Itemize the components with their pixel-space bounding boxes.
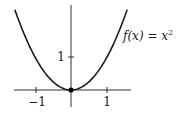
function-label-exponent: 2 [168, 28, 173, 37]
origin-point [68, 87, 73, 92]
parabola-plot: −1 1 1 f(x) = x2 [0, 0, 184, 113]
function-label-main: f(x) = x [122, 29, 168, 43]
x-tick-label-neg1: −1 [28, 95, 46, 109]
function-label: f(x) = x2 [122, 28, 173, 43]
y-tick-label-1: 1 [57, 50, 65, 64]
x-tick-label-1: 1 [103, 95, 111, 109]
